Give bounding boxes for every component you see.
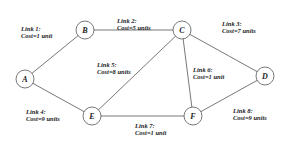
link-cost: Cost=1 unit	[193, 73, 225, 80]
link-labels-layer: Link 1:Cost=1 unitLink 2:Cost=5 unitsLin…	[20, 17, 267, 136]
link-label-6: Link 6:Cost=1 unit	[192, 66, 225, 80]
link-label-3: Link 3:Cost=7 units	[221, 20, 256, 34]
node-label: E	[88, 112, 94, 121]
node-label: C	[179, 26, 185, 35]
node-label: F	[189, 112, 196, 121]
node-label: B	[81, 26, 88, 35]
link-name: Link 5:	[96, 61, 117, 68]
link-cost: Cost=5 units	[117, 24, 151, 31]
link-name: Link 1:	[20, 25, 41, 32]
link-name: Link 8:	[232, 107, 253, 114]
link-name: Link 3:	[221, 20, 242, 27]
node-label: D	[261, 72, 268, 81]
edge-c-f	[182, 30, 193, 116]
node-a: A	[16, 70, 34, 88]
link-label-8: Link 8:Cost=9 units	[232, 107, 267, 121]
node-f: F	[184, 107, 202, 125]
node-b: B	[76, 21, 94, 39]
edges-layer	[25, 30, 265, 116]
link-name: Link 6:	[192, 66, 213, 73]
link-label-1: Link 1:Cost=1 unit	[20, 25, 53, 39]
link-cost: Cost=9 units	[233, 114, 267, 121]
link-label-2: Link 2:Cost=5 units	[116, 17, 151, 31]
node-d: D	[256, 67, 274, 85]
node-c: C	[173, 21, 191, 39]
node-label: A	[21, 75, 28, 84]
link-label-7: Link 7:Cost=1 unit	[134, 122, 167, 136]
node-e: E	[83, 107, 101, 125]
edge-f-d	[193, 76, 265, 116]
network-diagram: ABCDEF Link 1:Cost=1 unitLink 2:Cost=5 u…	[0, 0, 287, 144]
link-label-4: Link 4:Cost=9 units	[25, 108, 60, 122]
link-name: Link 4:	[25, 108, 46, 115]
link-name: Link 7:	[134, 122, 155, 129]
link-cost: Cost=9 units	[26, 115, 60, 122]
link-label-5: Link 5:Cost=8 units	[96, 61, 131, 75]
link-cost: Cost=1 unit	[21, 32, 53, 39]
link-cost: Cost=8 units	[97, 68, 131, 75]
link-name: Link 2:	[116, 17, 137, 24]
link-cost: Cost=7 units	[222, 27, 256, 34]
link-cost: Cost=1 unit	[135, 129, 167, 136]
